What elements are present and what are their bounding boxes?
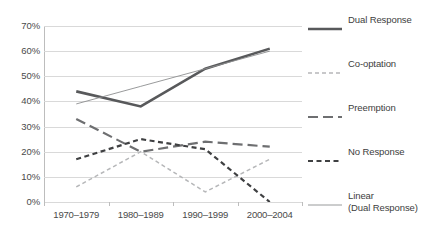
legend-label: No Response	[348, 146, 424, 158]
series-line	[76, 139, 270, 202]
chart-container: 70%60%50%40%30%20%10%0% 1970–19791980–19…	[0, 0, 424, 243]
y-axis-tick-label: 20%	[2, 147, 40, 157]
legend-item[interactable]: Linear(Dual Response)	[308, 190, 424, 214]
x-axis-tick	[44, 202, 45, 206]
chart-legend: Dual ResponseCo-optationPreemptionNo Res…	[308, 14, 424, 229]
x-axis-tick-label: 1990–1999	[173, 209, 238, 225]
legend-item[interactable]: No Response	[308, 146, 424, 170]
legend-item[interactable]: Preemption	[308, 102, 424, 126]
legend-label: Dual Response	[348, 14, 424, 26]
legend-swatch-icon	[308, 196, 342, 206]
y-axis-tick-label: 40%	[2, 96, 40, 106]
legend-item[interactable]: Dual Response	[308, 14, 424, 38]
legend-swatch-icon	[308, 20, 342, 30]
series-line	[76, 152, 270, 192]
series-line	[76, 119, 270, 152]
legend-label: Preemption	[348, 102, 424, 114]
x-axis-tick-label: 2000–2004	[238, 209, 303, 225]
legend-label: Co-optation	[348, 58, 424, 70]
legend-swatch-icon	[308, 152, 342, 162]
legend-swatch-icon	[308, 108, 342, 118]
y-axis-tick-label: 50%	[2, 71, 40, 81]
x-axis-labels: 1970–19791980–19891990–19992000–2004	[44, 209, 302, 225]
y-axis-tick-label: 60%	[2, 46, 40, 56]
x-axis-tick	[238, 202, 239, 206]
y-axis-tick-label: 70%	[2, 21, 40, 31]
legend-item[interactable]: Co-optation	[308, 58, 424, 82]
y-axis-tick-label: 10%	[2, 172, 40, 182]
legend-label-line2: (Dual Response)	[348, 202, 424, 214]
y-axis-tick-label: 30%	[2, 122, 40, 132]
plot-area	[44, 26, 302, 202]
x-axis-tick-label: 1970–1979	[44, 209, 109, 225]
legend-label: Linear(Dual Response)	[348, 190, 424, 213]
legend-swatch-icon	[308, 64, 342, 74]
x-axis-tick	[173, 202, 174, 206]
series-lines	[44, 26, 302, 202]
x-axis-tick	[302, 202, 303, 206]
x-axis-tick	[109, 202, 110, 206]
series-line	[76, 51, 270, 104]
y-axis-labels: 70%60%50%40%30%20%10%0%	[0, 0, 40, 243]
y-axis-tick-label: 0%	[2, 197, 40, 207]
x-axis-tick-label: 1980–1989	[109, 209, 174, 225]
